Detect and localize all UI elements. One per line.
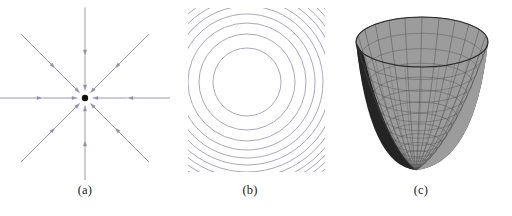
panel-c-caption: (c)	[330, 183, 512, 198]
surface-mesh-group	[356, 17, 488, 170]
panel-b-caption: (b)	[170, 183, 330, 198]
paraboloid-surface-svg	[330, 0, 512, 180]
panel-b-contour-plot	[170, 0, 330, 180]
contour-plot-svg	[170, 0, 330, 180]
panel-a-vector-field	[0, 0, 170, 180]
figure-container: (a) (b) (c)	[0, 0, 512, 216]
panel-a-caption: (a)	[0, 183, 170, 198]
arrow-group	[0, 8, 170, 180]
panel-c-surface-3d	[330, 0, 512, 180]
vector-field-svg	[0, 0, 170, 180]
center-point-dot	[82, 95, 88, 101]
contour-lines-group	[170, 0, 330, 180]
